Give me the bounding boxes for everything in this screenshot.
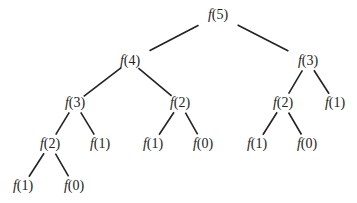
tree-edge (263, 112, 277, 134)
function-argument: (1) (329, 95, 345, 110)
tree-node-f2: f(2) (40, 137, 60, 151)
tree-node-f0: f(0) (64, 179, 84, 193)
tree-node-f4: f(4) (120, 54, 140, 68)
tree-node-f3: f(3) (65, 96, 85, 110)
tree-node-f2: f(2) (273, 96, 293, 110)
tree-node-f1: f(1) (13, 179, 33, 193)
tree-node-f1: f(1) (247, 137, 267, 151)
tree-node-f0: f(0) (193, 137, 213, 151)
tree-edge (81, 112, 95, 134)
tree-edge (138, 68, 171, 96)
function-argument: (3) (302, 53, 318, 68)
tree-edge (289, 112, 302, 134)
tree-node-f1: f(1) (325, 96, 345, 110)
tree-node-f3: f(3) (298, 54, 318, 68)
function-argument: (1) (17, 178, 33, 193)
tree-edge (314, 70, 329, 93)
recursion-tree-diagram: f(5)f(4)f(3)f(3)f(2)f(2)f(1)f(2)f(1)f(1)… (0, 0, 357, 203)
tree-node-f1: f(1) (143, 137, 163, 151)
function-argument: (0) (197, 136, 213, 151)
tree-edge (149, 25, 198, 51)
function-argument: (0) (68, 178, 84, 193)
function-argument: (4) (124, 53, 140, 68)
function-argument: (2) (174, 95, 190, 110)
function-argument: (0) (301, 136, 317, 151)
tree-edge (84, 68, 122, 97)
tree-node-f2: f(2) (170, 96, 190, 110)
function-argument: (1) (94, 136, 110, 151)
function-argument: (2) (277, 95, 293, 110)
tree-edge (289, 70, 303, 93)
tree-node-f1: f(1) (90, 137, 110, 151)
tree-edge (238, 25, 289, 51)
tree-edge (185, 113, 197, 135)
function-argument: (2) (44, 136, 60, 151)
tree-edge (29, 153, 44, 176)
function-argument: (1) (147, 136, 163, 151)
function-argument: (3) (69, 95, 85, 110)
tree-node-f5: f(5) (208, 8, 228, 22)
tree-edge (159, 112, 174, 135)
function-argument: (5) (212, 7, 228, 22)
tree-edge (56, 112, 70, 134)
tree-node-f0: f(0) (297, 137, 317, 151)
function-argument: (1) (251, 136, 267, 151)
tree-edge (55, 154, 68, 177)
